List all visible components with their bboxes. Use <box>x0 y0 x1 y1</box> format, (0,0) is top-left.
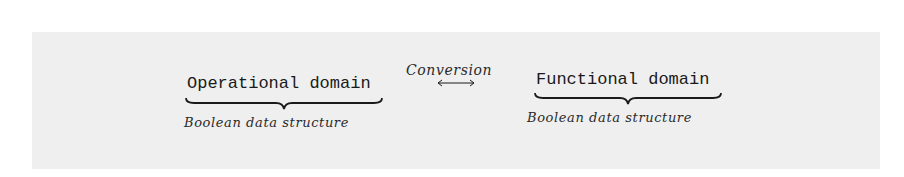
operational-domain-label: Operational domain <box>187 74 371 93</box>
underbrace-icon <box>184 96 384 112</box>
functional-domain-label: Functional domain <box>536 70 709 89</box>
conversion-label: Conversion <box>406 62 492 78</box>
underbrace-icon <box>533 91 723 107</box>
functional-domain-subtitle: Boolean data structure <box>527 110 692 125</box>
operational-domain-subtitle: Boolean data structure <box>184 115 349 130</box>
left-right-arrow-icon <box>436 78 476 88</box>
diagram-panel <box>32 32 880 169</box>
